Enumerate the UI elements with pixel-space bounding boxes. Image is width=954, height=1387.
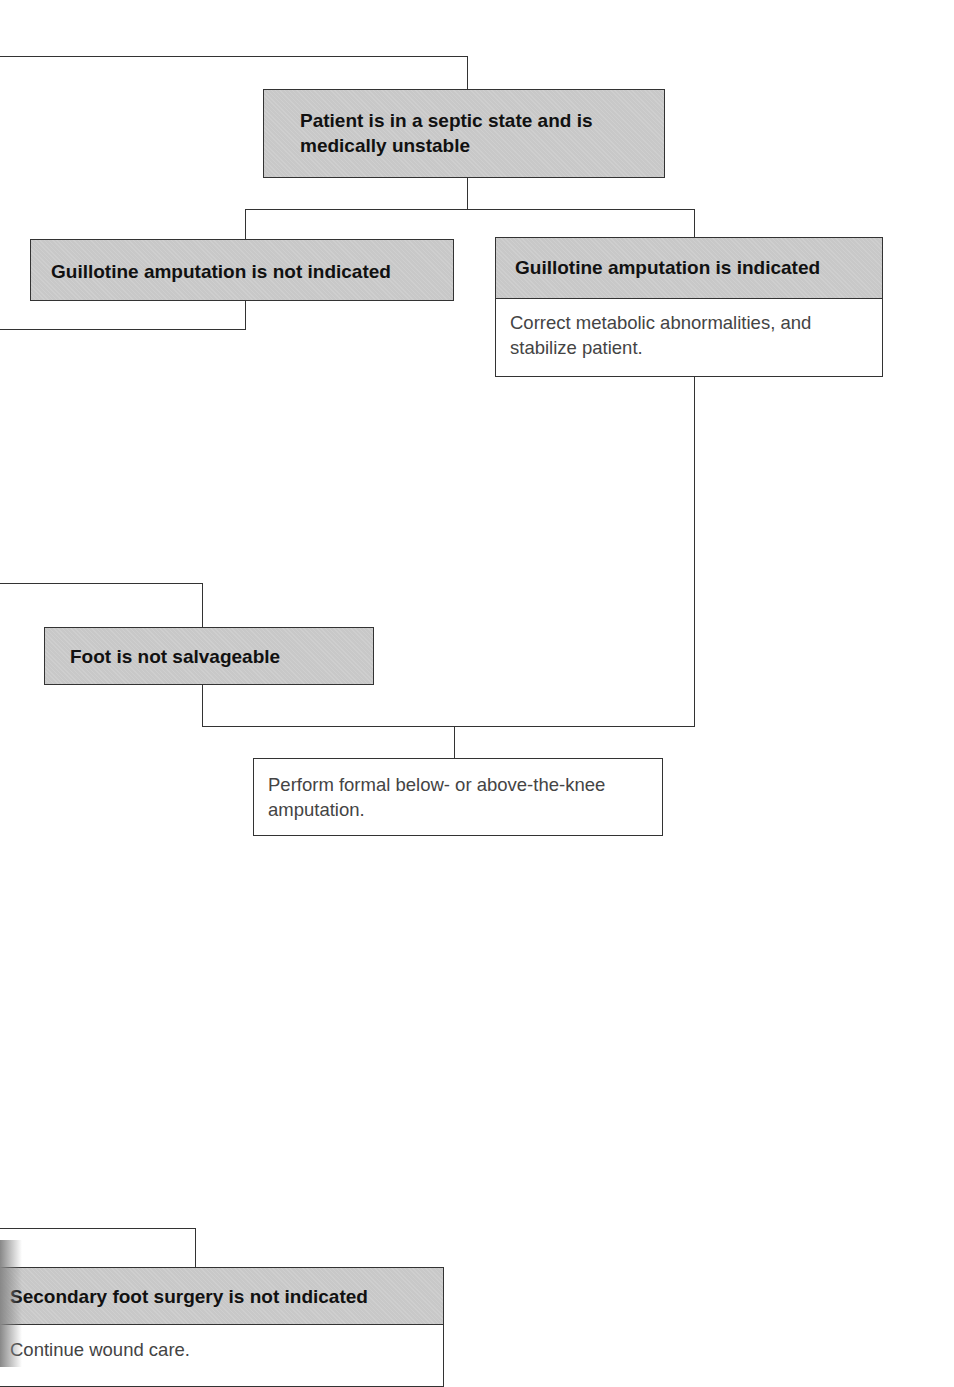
node-title: Guillotine amputation is not indicated [51, 259, 433, 284]
node-body: Correct metabolic abnormalities, and sta… [496, 299, 882, 371]
node-title: Foot is not salvageable [70, 644, 348, 669]
connector [245, 209, 246, 240]
node-title: Secondary foot surgery is not indicated [10, 1284, 443, 1309]
connector [195, 1228, 196, 1268]
connector [0, 56, 468, 57]
connector [467, 56, 468, 89]
connector [202, 583, 203, 628]
connector [0, 1228, 196, 1229]
node-foot-not-salvageable: Foot is not salvageable [44, 627, 374, 685]
node-guillotine-indicated: Guillotine amputation is indicated Corre… [495, 237, 883, 377]
connector [245, 209, 695, 210]
node-formal-amputation: Perform formal below- or above-the-knee … [253, 758, 663, 836]
connector [0, 583, 203, 584]
connector [202, 726, 695, 727]
node-header: Secondary foot surgery is not indicated [0, 1268, 443, 1325]
connector [694, 376, 695, 727]
node-guillotine-not-indicated: Guillotine amputation is not indicated [30, 239, 454, 301]
page-gutter-shadow [0, 1240, 22, 1367]
connector [694, 209, 695, 238]
node-title: Guillotine amputation is indicated [515, 255, 863, 280]
connector [202, 684, 203, 727]
node-body: Perform formal below- or above-the-knee … [268, 772, 648, 822]
connector [467, 177, 468, 210]
connector [454, 726, 455, 759]
node-header: Guillotine amputation is indicated [496, 238, 882, 299]
connector [0, 329, 246, 330]
node-septic-state: Patient is in a septic state and is medi… [263, 89, 665, 178]
node-body: Continue wound care. [0, 1325, 443, 1362]
node-title: Patient is in a septic state and is medi… [300, 108, 628, 158]
node-secondary-not-indicated: Secondary foot surgery is not indicated … [0, 1267, 444, 1387]
connector [245, 300, 246, 330]
